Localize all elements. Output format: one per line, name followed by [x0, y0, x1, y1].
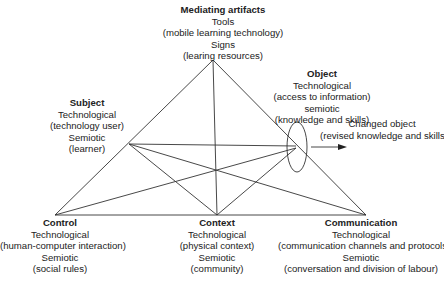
node-title: Control — [0, 217, 120, 229]
node-communication: Communication Technological (communicati… — [278, 217, 444, 275]
node-line: Signs — [143, 39, 303, 51]
object-ellipse — [287, 122, 307, 172]
node-line: semiotic — [262, 103, 382, 115]
node-title: Communication — [278, 217, 444, 229]
node-context: Context Technological (physical context)… — [157, 217, 277, 275]
edge-subject-context — [129, 144, 217, 215]
node-line: Technological — [278, 229, 444, 241]
node-line: (social rules) — [0, 263, 120, 275]
node-line: Tools — [143, 16, 303, 28]
node-line: (community) — [157, 263, 277, 275]
node-line: Technological — [0, 229, 120, 241]
node-title: Mediating artifacts — [143, 4, 303, 16]
node-line: (learner) — [37, 143, 137, 155]
node-line: (physical context) — [157, 240, 277, 252]
node-line: Semiotic — [157, 252, 277, 264]
node-line: (mobile learning technology) — [143, 27, 303, 39]
arrowhead-icon — [338, 144, 347, 150]
node-line: Technological — [157, 229, 277, 241]
node-control: Control Technological (human-computer in… — [0, 217, 120, 275]
node-line: (access to information) — [262, 91, 382, 103]
node-mediating-artifacts: Mediating artifacts Tools (mobile learni… — [143, 4, 303, 62]
node-title: Subject — [37, 97, 137, 109]
node-line: Semiotic — [0, 252, 120, 264]
node-line: Technological — [37, 109, 137, 121]
edge-subject-object — [129, 144, 296, 146]
node-title: Object — [262, 68, 382, 80]
node-line: (learing resources) — [143, 50, 303, 62]
node-line: (revised knowledge and skills) — [320, 130, 444, 142]
edge-context-object — [217, 148, 296, 215]
node-title: Context — [157, 217, 277, 229]
node-line: (human-computer interaction) — [0, 240, 120, 252]
node-line: Changed object — [320, 118, 444, 130]
node-line: Semiotic — [278, 252, 444, 264]
node-line: (technology user) — [37, 120, 137, 132]
node-line: (communication channels and protocols) — [278, 240, 444, 252]
node-subject: Subject Technological (technology user) … — [37, 97, 137, 155]
node-line: (conversation and division of labour) — [278, 263, 444, 275]
node-changed-object: Changed object (revised knowledge and sk… — [320, 118, 444, 141]
edge-apex-context — [213, 60, 217, 215]
node-line: Technological — [262, 80, 382, 92]
node-line: Semiotic — [37, 132, 137, 144]
